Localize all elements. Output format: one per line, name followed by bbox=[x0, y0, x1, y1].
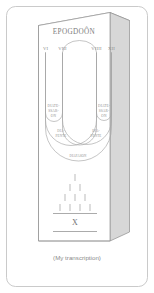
numeral-xii: XII bbox=[108, 46, 115, 51]
epogdoon-figure: EPOGDOÔN VI VIII VIIII XII DIATE- SSAR- … bbox=[0, 0, 154, 293]
label-diatessaron-right-line2: SSAR- bbox=[99, 109, 110, 113]
figure-caption: (My transcription) bbox=[53, 254, 101, 261]
label-diapente-right-line2: PENTE bbox=[91, 134, 102, 138]
label-diapason: DIAPASON bbox=[69, 154, 87, 158]
label-diatessaron-left-line3: ON bbox=[51, 114, 57, 118]
label-diapente-left-line1: DIA- bbox=[57, 129, 64, 133]
label-diapente-left-line2: PENTE bbox=[56, 134, 67, 138]
label-diatessaron-left-line1: DIATE- bbox=[48, 104, 61, 108]
numeral-vi: VI bbox=[43, 46, 49, 51]
diagram-canvas: EPOGDOÔN VI VIII VIIII XII DIATE- SSAR- … bbox=[0, 0, 154, 293]
figure-title: EPOGDOÔN bbox=[53, 26, 96, 36]
label-diapente-right-line1: DIA- bbox=[92, 129, 99, 133]
label-diatessaron-right-line3: ON bbox=[101, 114, 107, 118]
numeral-viiii: VIIII bbox=[91, 46, 102, 51]
tetractys-total-x: X bbox=[72, 218, 78, 227]
label-diatessaron-right-line1: DIATE- bbox=[98, 104, 111, 108]
label-diatessaron-left-line2: SSAR- bbox=[48, 109, 59, 113]
